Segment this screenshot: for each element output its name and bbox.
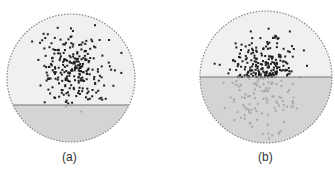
- particle-dot: [252, 52, 254, 54]
- particle-dot: [248, 111, 250, 113]
- particle-dot: [282, 100, 284, 102]
- particle-dot: [244, 114, 246, 116]
- particle-dot: [242, 60, 244, 62]
- particle-dot: [283, 48, 285, 50]
- particle-dot: [261, 67, 263, 69]
- particle-dot: [264, 90, 266, 92]
- particle-dot: [292, 56, 294, 58]
- particle-dot: [296, 108, 298, 110]
- particle-dot: [255, 61, 257, 63]
- particle-dot: [264, 55, 266, 57]
- particle-dot: [244, 68, 246, 70]
- particle-dot: [232, 59, 234, 61]
- particle-dot: [255, 47, 257, 49]
- particle-dot: [267, 43, 269, 45]
- particle-dot: [291, 70, 293, 72]
- particle-dot: [267, 114, 269, 116]
- particle-dot: [248, 109, 250, 111]
- particle-dot: [281, 80, 283, 82]
- particle-dot: [256, 84, 258, 86]
- particle-dot: [248, 78, 250, 80]
- particle-dot: [282, 65, 284, 67]
- particle-dot: [288, 70, 290, 72]
- particle-dot: [303, 49, 305, 51]
- particle-dot: [263, 83, 265, 85]
- particle-dot: [271, 61, 273, 63]
- particle-dot: [260, 73, 262, 75]
- particle-dot: [240, 117, 242, 119]
- particle-dot: [279, 60, 281, 62]
- particle-dot: [248, 44, 250, 46]
- particle-dot: [257, 70, 259, 72]
- particle-dot: [234, 60, 236, 62]
- particle-dot: [268, 87, 270, 89]
- particle-dot: [252, 63, 254, 65]
- particle-dot: [286, 69, 288, 71]
- particle-dot: [239, 53, 241, 55]
- particle-dot: [254, 82, 256, 84]
- particle-dot: [278, 37, 280, 39]
- particle-dot: [255, 65, 257, 67]
- particle-dot: [288, 89, 290, 91]
- particle-dot: [289, 31, 291, 33]
- particle-dot: [286, 106, 288, 108]
- particle-dot: [256, 119, 258, 121]
- particle-dot: [227, 72, 229, 74]
- particle-dot: [244, 93, 246, 95]
- particle-dot: [271, 58, 273, 60]
- particle-dot: [230, 97, 232, 99]
- particle-dot: [253, 72, 255, 74]
- particle-dot: [269, 55, 271, 57]
- particle-dot: [262, 48, 264, 50]
- particle-dot: [245, 58, 247, 60]
- particle-dot: [261, 54, 263, 56]
- particle-dot: [266, 41, 268, 43]
- particle-dot: [244, 97, 246, 99]
- particle-dot: [239, 57, 241, 59]
- particle-dot: [235, 80, 237, 82]
- particle-dot: [267, 90, 269, 92]
- particle-dot: [239, 89, 241, 91]
- particle-dot: [292, 83, 294, 85]
- particle-dot: [244, 118, 246, 120]
- particle-dot: [240, 84, 242, 86]
- particle-dot: [246, 74, 248, 76]
- particle-dot: [233, 119, 235, 121]
- particle-dot: [241, 44, 243, 46]
- particle-dot: [250, 73, 252, 75]
- particle-dot: [275, 59, 277, 61]
- particle-dot: [270, 63, 272, 65]
- particle-dot: [292, 100, 294, 102]
- particle-dot: [265, 87, 267, 89]
- particle-dot: [244, 74, 246, 76]
- particle-dot: [255, 110, 257, 112]
- particle-dot: [289, 73, 291, 75]
- particle-dot: [272, 37, 274, 39]
- lower-region: [200, 77, 332, 143]
- particle-dot: [251, 37, 253, 39]
- particle-dot: [274, 37, 276, 39]
- particle-dot: [247, 71, 249, 73]
- particle-dot: [240, 66, 242, 68]
- particle-dot: [267, 133, 269, 135]
- particle-dot: [219, 64, 221, 66]
- particle-dot: [280, 130, 282, 132]
- particle-dot: [254, 107, 256, 109]
- particle-dot: [254, 55, 256, 57]
- particle-dot: [285, 62, 287, 64]
- particle-dot: [237, 111, 239, 113]
- particle-dot: [253, 93, 255, 95]
- particle-dot: [283, 104, 285, 106]
- particle-dot: [267, 124, 269, 126]
- particle-dot: [262, 133, 264, 135]
- particle-dot: [267, 48, 269, 50]
- particle-dot: [265, 46, 267, 48]
- particle-dot: [278, 66, 280, 68]
- particle-dot: [272, 56, 274, 58]
- particle-dot: [260, 53, 262, 55]
- particle-dot: [251, 48, 253, 50]
- particle-dot: [276, 46, 278, 48]
- particle-dot: [262, 60, 264, 62]
- particle-dot: [278, 104, 280, 106]
- particle-dot: [273, 67, 275, 69]
